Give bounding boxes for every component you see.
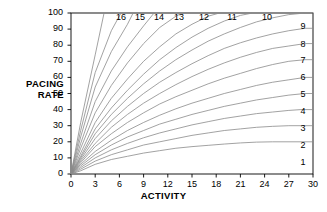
curve-label-1: 1 — [295, 157, 311, 167]
x-tick-label-15: 15 — [182, 179, 202, 189]
y-tick-label-0: 0 — [39, 168, 63, 178]
curve-label-11: 11 — [224, 12, 240, 22]
curve-label-14: 14 — [151, 12, 167, 22]
curve-label-10: 10 — [259, 12, 275, 22]
y-tick-label-50: 50 — [39, 88, 63, 98]
curve-label-16: 16 — [113, 12, 129, 22]
x-tick-label-18: 18 — [206, 179, 226, 189]
x-tick-label-3: 3 — [85, 179, 105, 189]
x-tick-label-30: 30 — [303, 179, 323, 189]
curve-label-9: 9 — [295, 21, 311, 31]
y-tick-label-10: 10 — [39, 152, 63, 162]
y-tick-label-100: 100 — [39, 7, 63, 17]
x-tick-label-24: 24 — [255, 179, 275, 189]
x-tick-label-0: 0 — [61, 179, 81, 189]
x-tick-label-6: 6 — [109, 179, 129, 189]
y-tick-label-70: 70 — [39, 55, 63, 65]
curve-label-2: 2 — [295, 140, 311, 150]
x-axis-title: ACTIVITY — [0, 190, 327, 201]
y-tick-label-80: 80 — [39, 39, 63, 49]
curve-label-8: 8 — [295, 39, 311, 49]
curve-label-4: 4 — [295, 106, 311, 116]
x-tick-label-27: 27 — [279, 179, 299, 189]
curve-label-15: 15 — [132, 12, 148, 22]
curve-label-13: 13 — [171, 12, 187, 22]
y-tick-label-40: 40 — [39, 104, 63, 114]
y-tick-label-90: 90 — [39, 23, 63, 33]
y-tick-label-20: 20 — [39, 136, 63, 146]
curve-label-5: 5 — [295, 89, 311, 99]
curve-label-12: 12 — [196, 12, 212, 22]
curve-label-6: 6 — [295, 72, 311, 82]
curve-label-7: 7 — [295, 55, 311, 65]
x-tick-label-21: 21 — [230, 179, 250, 189]
pacing-rate-activity-chart: PACINGRATE ACTIVITY 01020304050607080901… — [0, 0, 327, 212]
x-tick-label-12: 12 — [158, 179, 178, 189]
y-tick-label-30: 30 — [39, 120, 63, 130]
y-tick-label-60: 60 — [39, 71, 63, 81]
curve-label-3: 3 — [295, 123, 311, 133]
x-tick-label-9: 9 — [134, 179, 154, 189]
